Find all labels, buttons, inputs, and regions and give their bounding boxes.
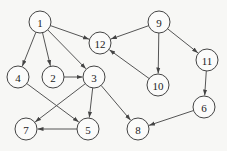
- node-label: 10: [153, 80, 165, 92]
- node-label: 4: [15, 72, 21, 84]
- node-1: 1: [29, 11, 51, 33]
- edge-9-to-12: [111, 26, 149, 39]
- node-layer: 112911104236758: [7, 11, 218, 140]
- edge-1-to-2: [43, 33, 51, 66]
- edge-9-to-10: [158, 33, 159, 74]
- node-8: 8: [127, 118, 149, 140]
- node-6: 6: [193, 96, 215, 118]
- edge-10-to-12: [109, 50, 149, 79]
- node-label: 12: [95, 38, 106, 50]
- node-12: 12: [89, 32, 111, 54]
- node-label: 6: [201, 102, 207, 114]
- edge-11-to-6: [205, 71, 207, 96]
- directed-graph: 112911104236758: [0, 0, 227, 151]
- node-3: 3: [83, 66, 105, 88]
- node-label: 5: [85, 124, 91, 136]
- graph-canvas: 112911104236758: [0, 0, 227, 151]
- edge-6-to-8: [149, 111, 194, 126]
- edge-9-to-11: [168, 29, 198, 53]
- node-label: 7: [23, 124, 29, 136]
- edge-1-to-4: [22, 32, 36, 66]
- edge-1-to-12: [50, 26, 89, 40]
- node-10: 10: [147, 74, 169, 96]
- node-5: 5: [77, 118, 99, 140]
- node-label: 8: [135, 124, 141, 136]
- node-9: 9: [148, 11, 170, 33]
- edge-4-to-5: [27, 84, 79, 123]
- edge-3-to-7: [35, 84, 85, 122]
- node-4: 4: [7, 66, 29, 88]
- node-label: 11: [202, 55, 213, 67]
- node-label: 2: [50, 72, 56, 84]
- edge-3-to-5: [89, 88, 92, 118]
- node-label: 9: [156, 17, 162, 29]
- node-11: 11: [196, 49, 218, 71]
- node-label: 3: [91, 72, 97, 84]
- node-7: 7: [15, 118, 37, 140]
- edge-3-to-8: [101, 85, 131, 120]
- node-label: 1: [37, 17, 43, 29]
- node-2: 2: [42, 66, 64, 88]
